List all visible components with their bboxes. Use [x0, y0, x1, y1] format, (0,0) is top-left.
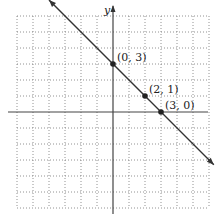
point-label: (0, 3) [117, 51, 147, 64]
data-point [142, 93, 148, 99]
series-line [49, 0, 214, 165]
point-label: (2, 1) [149, 83, 179, 96]
point-label: (3, 0) [165, 99, 195, 112]
y-axis-arrow [111, 5, 116, 12]
data-point [110, 61, 116, 67]
data-point [158, 109, 164, 115]
coordinate-plane: (0, 3)(2, 1)(3, 0) y [0, 0, 216, 215]
y-axis-label: y [103, 4, 111, 17]
series [49, 0, 214, 165]
points: (0, 3)(2, 1)(3, 0) [110, 51, 194, 115]
